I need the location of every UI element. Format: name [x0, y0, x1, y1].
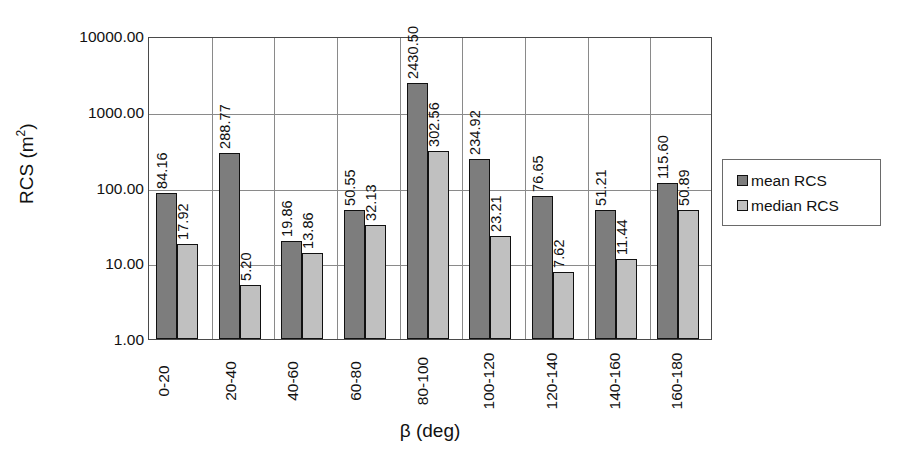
bar-value-label: 2430.50: [405, 25, 421, 78]
x-axis-tick-text: 160-180: [669, 353, 687, 410]
rcs-bar-chart: RCS (m2) 1.0010.00100.001000.0010000.00 …: [0, 0, 915, 458]
bar-value-label: 288.77: [217, 104, 233, 149]
y-axis-tick-labels: 1.0010.00100.001000.0010000.00: [40, 37, 144, 340]
x-axis-tick-labels: 0-2020-4040-6060-8080-100100-120120-1401…: [148, 348, 712, 414]
bar-value-label: 13.86: [300, 212, 316, 249]
y-axis-tick-label: 1.00: [44, 331, 144, 349]
bar-value-label: 234.92: [467, 110, 483, 155]
bar-value-label: 7.62: [551, 240, 567, 269]
x-axis-tick-label: 40-60: [273, 348, 336, 390]
bar-mean: [281, 241, 302, 339]
bar-group: 2430.50302.56: [400, 38, 463, 339]
legend-label: median RCS: [751, 197, 839, 215]
y-axis-tick-label: 10000.00: [44, 28, 144, 46]
bar-median: [240, 285, 261, 339]
bar-mean: [156, 193, 177, 339]
bar-median: [302, 253, 323, 339]
x-axis-tick-label: 100-120: [461, 348, 524, 390]
bar-median: [553, 272, 574, 339]
x-axis-title: β (deg): [148, 420, 712, 442]
bar-median: [678, 210, 699, 339]
y-axis-title-exponent: 2: [14, 130, 28, 137]
chart-legend: mean RCSmedian RCS: [722, 159, 881, 226]
bar-value-label: 302.56: [426, 102, 442, 147]
y-axis-tick-label: 100.00: [44, 180, 144, 198]
bar-median: [365, 225, 386, 339]
x-axis-tick-text: 100-120: [481, 353, 499, 410]
bar-group: 288.775.20: [212, 38, 275, 339]
bar-group: 50.5532.13: [337, 38, 400, 339]
bar-value-label: 11.44: [614, 219, 630, 255]
bar-mean: [532, 196, 553, 339]
bar-median: [428, 151, 449, 339]
bar-value-label: 50.89: [676, 169, 692, 206]
x-axis-tick-label: 80-100: [399, 348, 462, 390]
bar-value-label: 17.92: [175, 203, 191, 240]
x-axis-tick-text: 80-100: [414, 357, 432, 405]
bar-value-label: 115.60: [655, 135, 671, 179]
x-axis-tick-label: 60-80: [336, 348, 399, 390]
bar-value-label: 84.16: [154, 152, 170, 189]
bar-mean: [219, 153, 240, 339]
bar-median: [177, 244, 198, 339]
x-axis-tick-text: 0-20: [155, 365, 173, 396]
x-axis-tick-label: 120-140: [524, 348, 587, 390]
x-axis-tick-label: 140-160: [587, 348, 650, 390]
bar-value-label: 76.65: [530, 155, 546, 192]
bar-mean: [595, 210, 616, 339]
bar-value-label: 5.20: [238, 252, 254, 281]
x-axis-tick-text: 120-140: [543, 353, 561, 410]
bar-value-label: 32.13: [363, 184, 379, 221]
y-axis-title: RCS (m2): [14, 94, 37, 234]
bar-group: 115.6050.89: [650, 38, 713, 339]
bar-group: 19.8613.86: [274, 38, 337, 339]
x-axis-tick-label: 20-40: [211, 348, 274, 390]
bar-value-label: 51.21: [593, 169, 609, 206]
legend-label: mean RCS: [751, 172, 827, 190]
bar-mean: [407, 83, 428, 339]
bar-value-label: 19.86: [279, 200, 295, 237]
bar-median: [490, 236, 511, 339]
bar-median: [616, 259, 637, 339]
x-axis-tick-label: 160-180: [649, 348, 712, 390]
bar-group: 84.1617.92: [149, 38, 212, 339]
y-axis-tick-label: 1000.00: [44, 104, 144, 122]
legend-swatch-icon: [737, 175, 748, 186]
x-axis-tick-text: 40-60: [284, 361, 302, 401]
x-axis-tick-text: 140-160: [606, 353, 624, 410]
bar-value-label: 50.55: [342, 169, 358, 206]
y-axis-tick-label: 10.00: [44, 255, 144, 273]
bar-value-label: 23.21: [488, 195, 504, 232]
bar-mean: [469, 159, 490, 339]
bar-group: 234.9223.21: [462, 38, 525, 339]
y-axis-title-tail: ): [16, 123, 37, 129]
bar-mean: [657, 183, 678, 339]
legend-item[interactable]: median RCS: [737, 193, 880, 218]
plot-area: 84.1617.92288.775.2019.8613.8650.5532.13…: [148, 37, 712, 340]
legend-swatch-icon: [737, 200, 748, 211]
legend-item[interactable]: mean RCS: [737, 168, 880, 193]
bar-group: 51.2111.44: [588, 38, 651, 339]
y-axis-title-base: RCS (m: [16, 136, 37, 204]
bar-mean: [344, 210, 365, 339]
x-axis-tick-text: 20-40: [221, 361, 239, 401]
bar-group: 76.657.62: [525, 38, 588, 339]
x-axis-tick-label: 0-20: [148, 348, 211, 390]
x-axis-tick-text: 60-80: [347, 361, 365, 401]
